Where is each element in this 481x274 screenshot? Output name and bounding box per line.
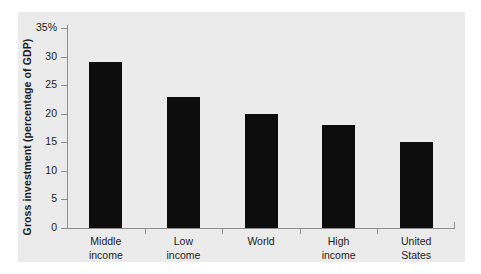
y-tick: 0 bbox=[61, 228, 67, 229]
y-tick-label: 35% bbox=[36, 21, 57, 33]
plot-area: 05101520253035% MiddleincomeLowincomeWor… bbox=[67, 25, 455, 229]
y-tick: 30 bbox=[61, 57, 67, 58]
bar bbox=[167, 97, 200, 228]
y-axis-line bbox=[67, 25, 68, 229]
bar bbox=[245, 114, 278, 228]
y-tick-label: 25 bbox=[45, 78, 57, 90]
bar bbox=[400, 142, 433, 228]
category-label-line: Middle bbox=[62, 235, 150, 249]
category-label: World bbox=[217, 235, 305, 249]
y-tick: 20 bbox=[61, 114, 67, 115]
x-axis-end-tick bbox=[454, 222, 455, 229]
y-tick: 25 bbox=[61, 85, 67, 86]
y-tick-label: 20 bbox=[45, 107, 57, 119]
y-tick-label: 0 bbox=[51, 221, 57, 233]
y-tick: 15 bbox=[61, 142, 67, 143]
x-tick bbox=[145, 229, 146, 234]
category-label: UnitedStates bbox=[372, 235, 460, 262]
y-tick: 10 bbox=[61, 171, 67, 172]
category-label: Middleincome bbox=[62, 235, 150, 262]
category-label-line: income bbox=[295, 249, 383, 263]
bar bbox=[89, 62, 122, 228]
bar bbox=[322, 125, 355, 228]
y-tick-label: 15 bbox=[45, 135, 57, 147]
chart-figure: Gross investment (percentage of GDP) 051… bbox=[0, 0, 481, 274]
category-label-line: income bbox=[139, 249, 227, 263]
y-tick-label: 10 bbox=[45, 164, 57, 176]
category-label: Lowincome bbox=[139, 235, 227, 262]
x-tick bbox=[377, 229, 378, 234]
x-tick bbox=[222, 229, 223, 234]
y-tick: 5 bbox=[61, 199, 67, 200]
category-label-line: Low bbox=[139, 235, 227, 249]
x-axis-line bbox=[67, 228, 455, 229]
y-tick: 35% bbox=[61, 28, 67, 29]
category-label-line: World bbox=[217, 235, 305, 249]
y-tick-label: 30 bbox=[45, 50, 57, 62]
x-tick bbox=[300, 229, 301, 234]
category-label-line: High bbox=[295, 235, 383, 249]
category-label-line: United bbox=[372, 235, 460, 249]
y-axis-title: Gross investment (percentage of GDP) bbox=[18, 12, 36, 262]
category-label-line: States bbox=[372, 249, 460, 263]
category-label-line: income bbox=[62, 249, 150, 263]
category-label: Highincome bbox=[295, 235, 383, 262]
y-tick-label: 5 bbox=[51, 192, 57, 204]
